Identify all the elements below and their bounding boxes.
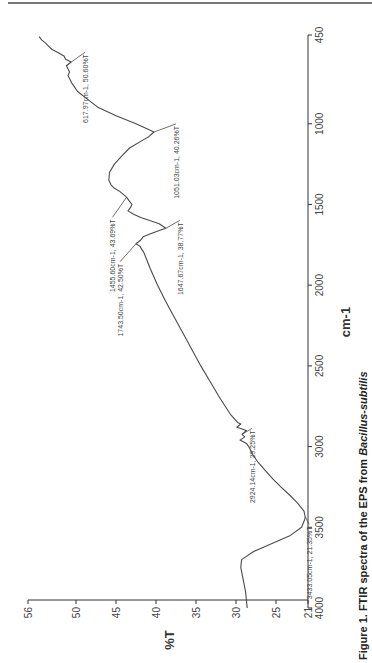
y-tick-label: 50: [71, 607, 82, 619]
x-tick-label: 2500: [314, 354, 325, 377]
chart-axes: 4000350030002500200015001000450212530354…: [23, 26, 325, 619]
peak-label: 617.97cm-1, 50.60%T: [82, 53, 89, 123]
y-tick-label: 35: [191, 607, 202, 619]
x-tick-label: 3500: [314, 516, 325, 539]
peak-label: 1051.03cm-1, 40.26%T: [173, 125, 180, 198]
x-tick-label: 1000: [314, 112, 325, 135]
y-axis-title: %T: [162, 630, 177, 650]
x-tick-label: 1500: [314, 193, 325, 216]
annotation-leader: [120, 244, 136, 262]
caption-species: Bacillus-subtilis: [357, 371, 369, 455]
y-tick-label: 45: [111, 607, 122, 619]
annotation-leader: [112, 197, 126, 217]
annotation-leader: [305, 516, 309, 524]
x-tick-label: 3000: [314, 435, 325, 458]
y-tick-label: 30: [231, 607, 242, 619]
spectrum-line: [39, 37, 305, 608]
figure-caption: Figure 1. FTIR spectra of the EPS from B…: [357, 371, 369, 660]
ftir-chart: 4000350030002500200015001000450212530354…: [0, 0, 372, 663]
y-tick-label: 40: [151, 607, 162, 619]
peak-label: 2924.14cm-1, 29.25%T: [249, 430, 256, 503]
y-tick-label: 25: [271, 607, 282, 619]
peak-label: 1647.67cm-1, 38.77%T: [177, 222, 184, 295]
peak-label: 1743.50cm-1, 42.50%T: [117, 263, 124, 336]
caption-prefix: Figure 1. FTIR spectra of the EPS from: [357, 456, 369, 660]
x-tick-label: 4000: [314, 596, 325, 619]
peak-label: 3433.05cm-1, 21.35%T: [306, 526, 313, 599]
x-tick-label: 2000: [314, 274, 325, 297]
y-tick-label: 56: [23, 607, 34, 619]
peak-label: 1455.60cm-1, 43.69%T: [109, 219, 116, 292]
peak-annotations: 3433.05cm-1, 21.35%T2924.14cm-1, 29.25%T…: [71, 52, 313, 599]
y-tick-label: 21: [303, 607, 314, 619]
x-axis-title: cm-1: [338, 307, 353, 337]
spectrum-polyline: [39, 37, 305, 608]
x-tick-label: 450: [314, 26, 325, 43]
